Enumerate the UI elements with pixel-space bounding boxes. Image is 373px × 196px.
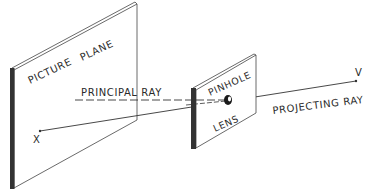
label-point-v: V [355, 67, 362, 78]
label-point-x: X [33, 134, 40, 145]
point-v-dot [355, 80, 357, 82]
point-x-dot [39, 130, 41, 132]
label-principal-ray: PRINCIPAL RAY [81, 87, 162, 98]
pinhole-panel-edge [191, 88, 196, 149]
picture-plane-edge [10, 68, 15, 189]
label-projecting-ray: PROJECTING RAY [272, 94, 365, 116]
pinhole-projection-diagram: PICTURE PLANE PRINCIPAL RAY PINHOLE LENS… [0, 0, 373, 196]
pinhole-icon [224, 95, 232, 105]
